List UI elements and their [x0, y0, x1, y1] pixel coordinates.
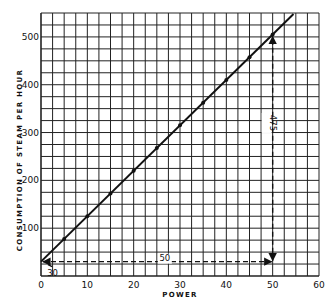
data-point-marker: [109, 192, 113, 196]
intercept-pointer: [48, 265, 52, 267]
y-axis-label: CONSUMPTION OF STEAM PER HOUR: [16, 69, 24, 251]
y-tick-label: 500: [22, 32, 39, 42]
data-point-marker: [224, 78, 228, 82]
x-axis-label: POWER: [162, 291, 197, 299]
data-point-marker: [85, 214, 89, 218]
x-tick-label: 30: [174, 280, 186, 290]
y-tick-label: 400: [22, 80, 39, 90]
data-point-marker: [248, 55, 252, 59]
data-point-marker: [271, 33, 275, 37]
x-tick-label: 10: [82, 280, 94, 290]
y-tick-label: 100: [22, 223, 39, 233]
axis-ticks: 0102030405060100200300400500: [22, 32, 325, 290]
y-tick-label: 200: [22, 175, 39, 185]
intercept-label: 30: [47, 268, 58, 278]
data-point-marker: [155, 146, 159, 150]
rise-label: 475: [268, 115, 278, 131]
data-point-marker: [62, 237, 66, 241]
data-point-marker: [132, 169, 136, 173]
steam-consumption-chart: 3050475 0102030405060100200300400500 POW…: [0, 0, 334, 304]
data-point-marker: [201, 101, 205, 105]
x-tick-label: 0: [38, 280, 44, 290]
y-tick-label: 300: [22, 128, 39, 138]
x-tick-label: 40: [221, 280, 233, 290]
run-label: 50: [159, 253, 170, 263]
data-line: [41, 14, 294, 262]
x-tick-label: 50: [267, 280, 279, 290]
trend-line: [41, 14, 294, 262]
grid: [41, 13, 319, 276]
x-tick-label: 20: [128, 280, 140, 290]
data-point-marker: [178, 123, 182, 127]
x-tick-label: 60: [313, 280, 325, 290]
